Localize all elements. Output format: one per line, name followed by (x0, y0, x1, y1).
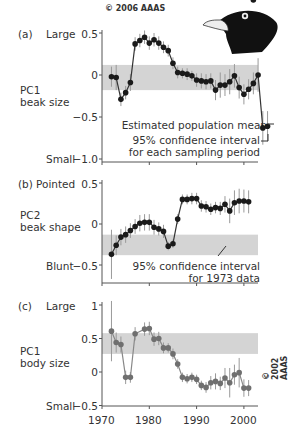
data-point (151, 336, 157, 342)
data-point (109, 252, 115, 258)
data-point (208, 380, 214, 386)
data-point (213, 87, 219, 93)
data-point (128, 375, 134, 381)
data-point (246, 86, 252, 92)
data-point (147, 40, 153, 46)
data-point (232, 73, 238, 79)
finch-head-icon (203, 11, 278, 54)
data-point (137, 38, 143, 44)
data-point (109, 328, 115, 334)
data-point (180, 71, 186, 77)
data-point (251, 81, 257, 87)
data-point (194, 77, 200, 83)
data-point (213, 205, 219, 211)
data-point (203, 204, 209, 210)
data-point (156, 40, 162, 46)
data-point (199, 203, 205, 209)
data-point (222, 375, 228, 381)
data-point (227, 79, 233, 85)
data-point (217, 206, 223, 212)
data-point (123, 90, 129, 96)
data-point (175, 216, 181, 222)
data-point (128, 80, 134, 86)
data-point (147, 326, 153, 332)
data-point (118, 342, 124, 348)
data-point (175, 70, 181, 76)
data-point (156, 336, 162, 342)
ci-band (102, 333, 258, 354)
data-point (184, 376, 190, 382)
data-point (203, 385, 209, 391)
data-point (170, 351, 176, 357)
data-point (142, 326, 148, 332)
data-point (241, 198, 247, 204)
data-point (161, 229, 167, 235)
data-point (132, 224, 138, 230)
data-point (147, 220, 153, 226)
data-point (246, 199, 252, 205)
data-point (161, 44, 167, 50)
data-point (208, 78, 214, 84)
data-point (151, 37, 157, 43)
data-point (217, 381, 223, 387)
data-point (118, 97, 124, 103)
data-point (156, 226, 162, 232)
data-point (189, 73, 195, 79)
data-point (236, 85, 242, 91)
data-point (170, 60, 176, 66)
data-point (184, 197, 190, 203)
data-point (251, 0, 257, 3)
data-point (236, 370, 242, 376)
data-point (194, 377, 200, 383)
data-point (137, 220, 143, 226)
data-point (118, 234, 124, 240)
data-point (109, 74, 115, 80)
data-point (175, 361, 181, 367)
data-point (123, 232, 129, 238)
data-point (128, 228, 134, 234)
data-point (165, 243, 171, 249)
data-point (132, 331, 138, 337)
data-point (132, 41, 138, 47)
data-point (142, 34, 148, 40)
data-point (194, 196, 200, 202)
chart-canvas (0, 0, 293, 431)
data-point (241, 92, 247, 98)
data-point (203, 79, 209, 85)
data-point (180, 375, 186, 381)
data-point (199, 78, 205, 84)
data-point (222, 82, 228, 88)
data-point (246, 385, 252, 391)
data-point (222, 202, 228, 208)
data-point (255, 72, 261, 78)
data-point (165, 48, 171, 54)
data-point (227, 208, 233, 214)
data-point (113, 75, 119, 81)
data-point (113, 243, 119, 249)
data-point (165, 345, 171, 351)
data-point (170, 241, 176, 247)
data-point (227, 380, 233, 386)
